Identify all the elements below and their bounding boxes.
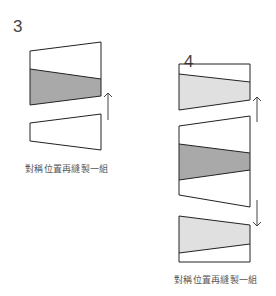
step4-bottom-piece [179,216,250,262]
step3-caption: 對稱位置再縫製一組 [25,162,109,175]
step3-bottom-piece [30,114,101,150]
step4-top-piece [179,64,250,110]
step4-middle-piece [179,116,250,207]
step4-caption: 對稱位置再縫製一組 [174,273,258,286]
step3-top-piece [30,42,101,105]
sewing-diagram [0,0,276,296]
